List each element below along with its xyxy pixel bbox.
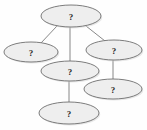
graph-node[interactable]: ? [4, 42, 59, 63]
graph-node[interactable]: ? [84, 79, 143, 100]
graph-diagram: ?????? [0, 0, 147, 130]
node-label: ? [67, 109, 72, 119]
graph-node[interactable]: ? [41, 5, 102, 28]
node-label: ? [112, 46, 117, 56]
graph-node[interactable]: ? [86, 40, 143, 61]
node-label: ? [69, 12, 74, 22]
node-label: ? [111, 85, 116, 95]
graph-node[interactable]: ? [39, 102, 100, 125]
node-label: ? [68, 67, 73, 77]
node-label: ? [29, 48, 34, 58]
nodes-layer: ?????? [4, 5, 143, 125]
graph-edge [86, 26, 105, 41]
graph-node[interactable]: ? [41, 61, 100, 82]
graph-edge [41, 26, 57, 43]
graph-canvas: ?????? [0, 0, 147, 130]
